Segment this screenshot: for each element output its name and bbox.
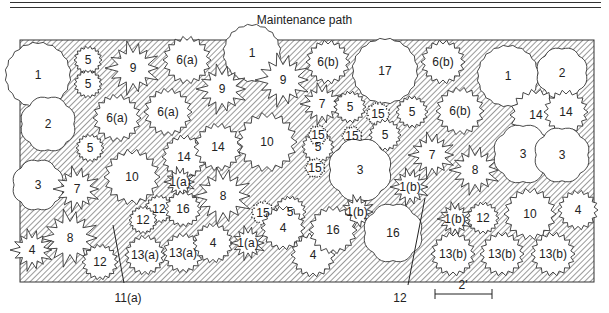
callout-label-11a: 11(a) — [114, 291, 141, 305]
plant-label: 2 — [559, 67, 566, 79]
plant-label: 5 — [85, 78, 92, 90]
plant-label: 6(a) — [157, 106, 178, 118]
plant-label: 9 — [280, 74, 287, 86]
plant-label: 7 — [429, 149, 436, 161]
plant-label: 15 — [308, 162, 321, 174]
plant-label: 5 — [409, 106, 416, 118]
callout-label-12: 12 — [393, 291, 406, 305]
plant-label: 8 — [472, 164, 479, 176]
plant-label: 12 — [152, 203, 165, 215]
plant-label: 6(b) — [317, 56, 338, 68]
plant-label: 17 — [378, 65, 391, 77]
plant-label: 15 — [256, 207, 269, 219]
plant-label: 14 — [177, 151, 190, 163]
plant-label: 6(b) — [449, 105, 470, 117]
plant-label: 13(b) — [488, 248, 516, 260]
plant-label: 5 — [382, 129, 389, 141]
plant-label: 13(b) — [439, 248, 467, 260]
plant-label: 15 — [371, 108, 384, 120]
plant-label: 3 — [357, 164, 364, 176]
plant-label: 4 — [310, 249, 317, 261]
plant-label: 1 — [249, 47, 256, 59]
plant-label: 4 — [29, 244, 36, 256]
plant-label: 13(b) — [539, 248, 567, 260]
plant-label: 12 — [476, 212, 489, 224]
plant-label: 7 — [319, 98, 326, 110]
plant-label: 14 — [559, 106, 572, 118]
plant-label: 3 — [520, 148, 527, 160]
plant-label: 14 — [529, 109, 542, 121]
plant-label: 1(a) — [237, 237, 258, 249]
plant-label: 4 — [575, 204, 582, 216]
plant-label: 12 — [93, 256, 106, 268]
plant-label: 1(b) — [444, 213, 465, 225]
plant-label: 5 — [87, 142, 94, 154]
plant-label: 7 — [74, 183, 81, 195]
plant-label: 5 — [287, 206, 294, 218]
plant-label: 1(a) — [169, 176, 190, 188]
plant-label: 8 — [220, 190, 227, 202]
planting-plan — [0, 0, 609, 313]
plant-label: 6(b) — [432, 56, 453, 68]
plant-label: 12 — [136, 214, 149, 226]
plant-label: 1(b) — [346, 206, 367, 218]
plant-label: 10 — [260, 136, 273, 148]
plant-label: 5 — [347, 101, 354, 113]
plant-label: 8 — [67, 232, 74, 244]
plant-label: 5 — [85, 54, 92, 66]
plant-label: 16 — [326, 224, 339, 236]
plant-label: 15 — [311, 129, 324, 141]
plant-label: 10 — [523, 208, 536, 220]
plant-label: 1 — [505, 70, 512, 82]
plant-label: 9 — [130, 62, 137, 74]
plant-label: 4 — [280, 222, 287, 234]
plant-label: 10 — [125, 171, 138, 183]
plant-label: 13(a) — [169, 247, 197, 259]
plant-label: 2 — [45, 118, 52, 130]
scale-bar-label: 2' — [459, 278, 468, 292]
plant-label: 15 — [345, 130, 358, 142]
plant-label: 9 — [219, 83, 226, 95]
plant-label: 13(a) — [131, 249, 159, 261]
plant-label: 4 — [210, 237, 217, 249]
plant-label: 3 — [35, 179, 42, 191]
plant-label: 16 — [176, 203, 189, 215]
plant-label: 3 — [559, 149, 566, 161]
plant-label: 6(a) — [176, 54, 197, 66]
plant-label: 5 — [315, 141, 322, 153]
plant-label: 1 — [35, 69, 42, 81]
plant-label: 6(a) — [106, 112, 127, 124]
plant-label: 1(b) — [399, 181, 420, 193]
plant-label: 14 — [211, 141, 224, 153]
plant-label: 16 — [386, 227, 399, 239]
